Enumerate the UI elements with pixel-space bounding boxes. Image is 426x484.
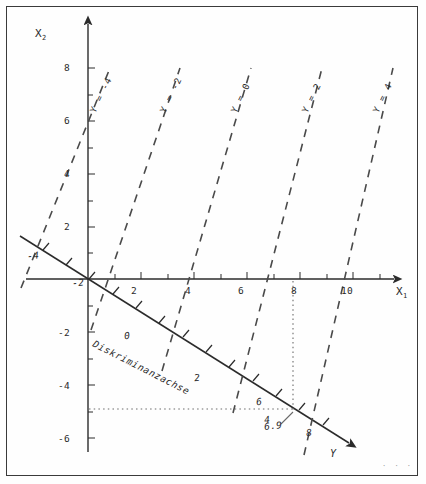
y-tick-label-6: 6 — [64, 115, 70, 126]
y-axis — [88, 24, 95, 452]
y-axis-title: X2 — [35, 27, 46, 42]
scan-artifact: · · · — [382, 462, 413, 470]
discriminant-axis-title: Y — [330, 448, 336, 459]
iso-line-4 — [304, 68, 393, 455]
figure-root: X2 X1 Y 8 6 4 2 -2 -4 -6 2 4 6 8 10 -4 -… — [0, 0, 426, 484]
y-tick-label-8: 8 — [64, 62, 70, 73]
disc-tick-label-minus2: -2 — [71, 276, 84, 288]
y-tick-label-minus2: -2 — [58, 327, 70, 338]
y-tick-label-minus6: -6 — [58, 433, 70, 444]
projection-value-label: 6.9 — [263, 419, 282, 432]
y-tick-label-minus4: -4 — [58, 380, 70, 391]
x-tick-label-6: 6 — [238, 285, 244, 296]
disc-tick-label-6: 6 — [255, 396, 262, 408]
disc-tick-label-2: 2 — [193, 372, 200, 384]
discriminant-axis — [20, 236, 349, 443]
x-tick-label-10: 10 — [341, 285, 353, 296]
projection-tick — [281, 412, 293, 424]
iso-line-2 — [233, 68, 322, 413]
y-tick-label-2: 2 — [64, 221, 70, 232]
x-tick-label-8: 8 — [291, 285, 297, 296]
iso-lines — [21, 68, 393, 455]
disc-tick-label-minus4: -4 — [26, 249, 39, 261]
x-tick-label-4: 4 — [185, 285, 191, 296]
x-axis-title: X1 — [396, 285, 407, 300]
disc-tick-label-0: 0 — [123, 330, 130, 342]
y-tick-label-4: 4 — [64, 168, 70, 179]
disc-tick-label-8: 8 — [305, 427, 312, 439]
x-tick-label-2: 2 — [131, 285, 137, 296]
